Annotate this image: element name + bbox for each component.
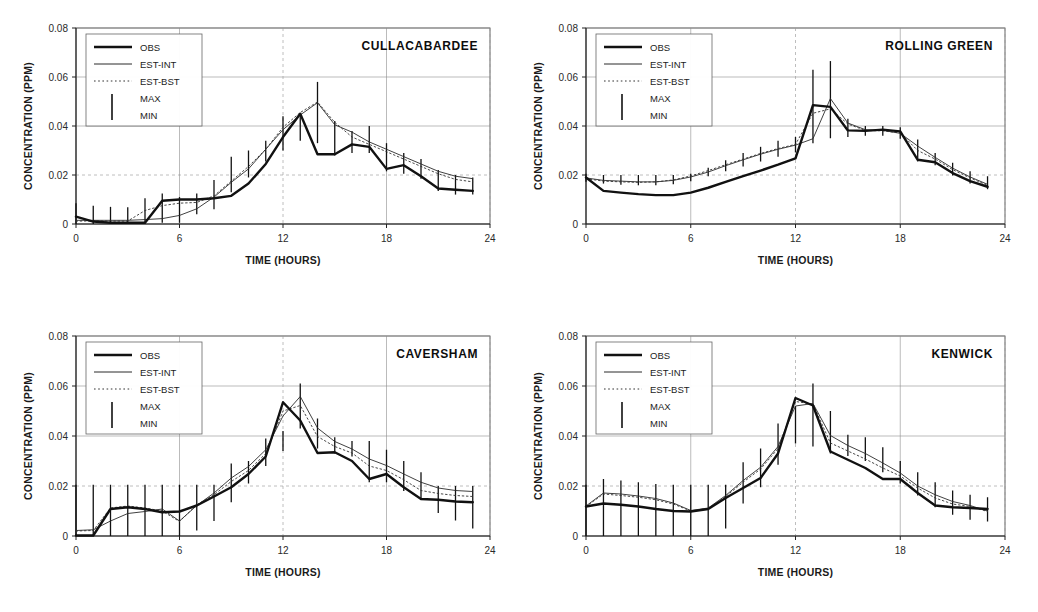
y-tick-label: 0.08 xyxy=(49,331,69,342)
x-tick-label: 6 xyxy=(177,233,183,244)
y-tick-label: 0.06 xyxy=(559,72,579,83)
x-tick-label: 12 xyxy=(790,545,802,556)
y-axis-title: CONCENTRATION (PPM) xyxy=(532,372,544,500)
x-tick-label: 18 xyxy=(895,545,907,556)
chart-svg: 00.020.040.060.0806121824TIME (HOURS)CON… xyxy=(18,322,508,594)
legend-label-obs: OBS xyxy=(140,350,160,361)
legend-label-est-bst: EST-BST xyxy=(650,384,690,395)
legend-label-est-int: EST-INT xyxy=(650,59,687,70)
y-tick-label: 0.02 xyxy=(559,170,579,181)
panel-title: KENWICK xyxy=(931,347,993,361)
x-tick-label: 0 xyxy=(583,233,589,244)
x-tick-label: 0 xyxy=(73,545,79,556)
legend-label-max: MAX xyxy=(140,93,161,104)
x-tick-label: 18 xyxy=(895,233,907,244)
y-tick-label: 0.06 xyxy=(49,72,69,83)
y-tick-label: 0.04 xyxy=(559,121,579,132)
y-tick-label: 0.06 xyxy=(559,381,579,392)
y-tick-label: 0.04 xyxy=(49,121,69,132)
legend-label-min: MIN xyxy=(650,418,668,429)
x-tick-label: 18 xyxy=(381,545,393,556)
x-tick-label: 12 xyxy=(277,233,289,244)
y-tick-label: 0.02 xyxy=(49,481,69,492)
y-tick-label: 0 xyxy=(572,219,578,230)
y-tick-label: 0.08 xyxy=(559,331,579,342)
y-tick-label: 0 xyxy=(62,531,68,542)
chart-svg: 00.020.040.060.0806121824TIME (HOURS)CON… xyxy=(18,14,508,282)
panel-title: ROLLING GREEN xyxy=(885,39,993,53)
y-tick-label: 0.04 xyxy=(559,431,579,442)
chart-panel-rolling-green: 00.020.040.060.0806121824TIME (HOURS)CON… xyxy=(528,14,1023,282)
legend-label-est-int: EST-INT xyxy=(140,367,177,378)
panel-title: CULLACABARDEE xyxy=(362,39,478,53)
x-axis-title: TIME (HOURS) xyxy=(245,254,320,266)
y-tick-label: 0 xyxy=(62,219,68,230)
y-tick-label: 0.06 xyxy=(49,381,69,392)
y-tick-label: 0.08 xyxy=(559,23,579,34)
legend-label-obs: OBS xyxy=(140,42,160,53)
chart-svg: 00.020.040.060.0806121824TIME (HOURS)CON… xyxy=(528,322,1023,594)
y-axis-title: CONCENTRATION (PPM) xyxy=(22,372,34,500)
legend-label-est-int: EST-INT xyxy=(650,367,687,378)
x-tick-label: 12 xyxy=(790,233,802,244)
legend-label-min: MIN xyxy=(140,418,158,429)
series-line-obs xyxy=(76,114,473,223)
y-tick-label: 0.02 xyxy=(49,170,69,181)
panel-title: CAVERSHAM xyxy=(396,347,478,361)
x-tick-label: 24 xyxy=(999,545,1011,556)
legend-label-est-bst: EST-BST xyxy=(140,76,180,87)
x-axis-title: TIME (HOURS) xyxy=(245,566,320,578)
x-tick-label: 6 xyxy=(688,233,694,244)
chart-svg: 00.020.040.060.0806121824TIME (HOURS)CON… xyxy=(528,14,1023,282)
x-tick-label: 6 xyxy=(177,545,183,556)
chart-panel-caversham: 00.020.040.060.0806121824TIME (HOURS)CON… xyxy=(18,322,508,594)
legend-label-est-bst: EST-BST xyxy=(140,384,180,395)
legend-label-max: MAX xyxy=(650,401,671,412)
x-tick-label: 0 xyxy=(583,545,589,556)
x-tick-label: 24 xyxy=(999,233,1011,244)
x-tick-label: 24 xyxy=(484,233,496,244)
y-tick-label: 0.04 xyxy=(49,431,69,442)
x-axis-title: TIME (HOURS) xyxy=(758,254,833,266)
x-tick-label: 18 xyxy=(381,233,393,244)
y-tick-label: 0.08 xyxy=(49,23,69,34)
x-tick-label: 12 xyxy=(277,545,289,556)
legend-label-min: MIN xyxy=(650,110,668,121)
x-tick-label: 0 xyxy=(73,233,79,244)
legend-label-max: MAX xyxy=(650,93,671,104)
y-axis-title: CONCENTRATION (PPM) xyxy=(532,62,544,190)
x-tick-label: 24 xyxy=(484,545,496,556)
y-axis-title: CONCENTRATION (PPM) xyxy=(22,62,34,190)
chart-panel-kenwick: 00.020.040.060.0806121824TIME (HOURS)CON… xyxy=(528,322,1023,594)
legend-label-est-bst: EST-BST xyxy=(650,76,690,87)
legend-label-obs: OBS xyxy=(650,42,670,53)
legend-label-max: MAX xyxy=(140,401,161,412)
chart-panel-cullacabardee: 00.020.040.060.0806121824TIME (HOURS)CON… xyxy=(18,14,508,282)
legend-label-est-int: EST-INT xyxy=(140,59,177,70)
x-tick-label: 6 xyxy=(688,545,694,556)
y-tick-label: 0.02 xyxy=(559,481,579,492)
legend-label-obs: OBS xyxy=(650,350,670,361)
y-tick-label: 0 xyxy=(572,531,578,542)
figure-grid: 00.020.040.060.0806121824TIME (HOURS)CON… xyxy=(0,0,1038,612)
legend-label-min: MIN xyxy=(140,110,158,121)
x-axis-title: TIME (HOURS) xyxy=(758,566,833,578)
